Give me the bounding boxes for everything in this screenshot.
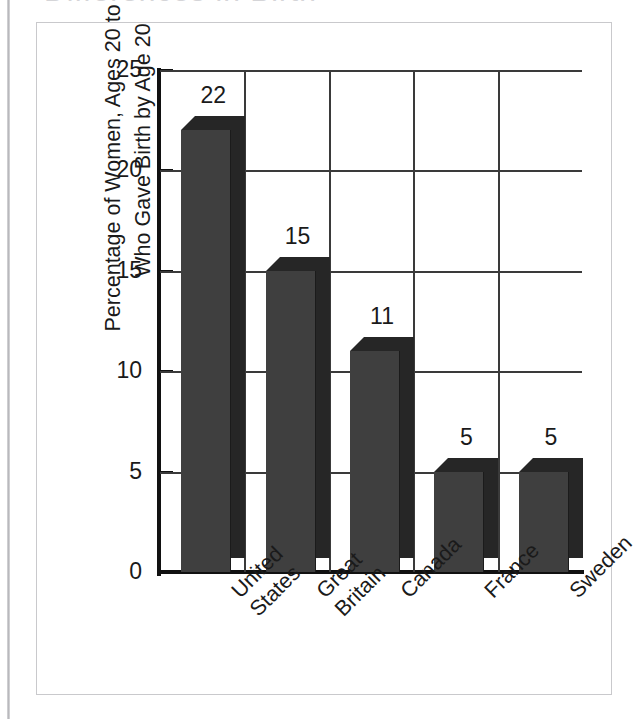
bar-value-label: 15 [252,225,344,248]
y-axis-tick-label: 0 [102,560,142,583]
bar: 22 [181,130,231,572]
bar-side-face [316,257,330,558]
bar-side-face [231,116,245,558]
page-gutter-line [7,0,10,719]
y-axis-title-line-2: Who Gave Birth by Age 20 [128,0,158,370]
plot-area: 22151155 [160,70,582,572]
gridline-horizontal [160,70,582,72]
bar: 15 [266,271,316,572]
y-axis-tick-label: 5 [102,460,142,483]
bar-value-label: 5 [505,426,597,449]
y-axis-title: Percentage of Women, Ages 20 to 24, Who … [98,0,158,370]
bar-front-face [266,271,316,572]
y-axis-title-line-1: Percentage of Women, Ages 20 to 24, [98,0,128,370]
bar-front-face [181,130,231,572]
bar-side-face [400,337,414,558]
bar-value-label: 11 [336,305,428,328]
bar-front-face [350,351,400,572]
bar-value-label: 5 [420,426,512,449]
bar-side-face [569,458,583,558]
bar-side-face [484,458,498,558]
bar: 11 [350,351,400,572]
bar-value-label: 22 [167,84,259,107]
